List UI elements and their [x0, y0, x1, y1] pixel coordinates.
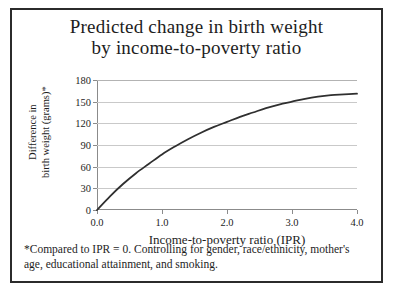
x-tick-label: 2.0	[220, 217, 233, 228]
plot-region: Difference in birth weight (grams)* 0306…	[12, 68, 385, 223]
x-tick-mark	[292, 210, 293, 214]
footnote: *Compared to IPR = 0. Controlling for ge…	[24, 242, 371, 273]
y-axis-title-line-2: birth weight (grams)*	[39, 66, 52, 198]
y-axis-title-line-1: Difference in	[27, 104, 38, 159]
y-tick-label: 120	[75, 118, 91, 129]
y-tick-label: 180	[75, 75, 91, 86]
y-tick-label: 90	[81, 140, 92, 151]
y-tick-label: 60	[81, 161, 92, 172]
prediction-curve	[97, 80, 357, 210]
figure-panel: Predicted change in birth weight by inco…	[10, 8, 383, 283]
y-tick-label: 30	[81, 183, 92, 194]
curve-path	[97, 94, 357, 210]
chart-title: Predicted change in birth weight by inco…	[12, 16, 381, 59]
y-axis-title: Difference in birth weight (grams)*	[26, 66, 52, 198]
x-tick-label: 1.0	[155, 217, 168, 228]
x-tick-label: 0.0	[90, 217, 103, 228]
x-tick-label: 4.0	[350, 217, 363, 228]
x-tick-label: 3.0	[285, 217, 298, 228]
chart-title-line-1: Predicted change in birth weight	[12, 16, 381, 37]
x-tick-mark	[357, 210, 358, 214]
x-tick-mark	[227, 210, 228, 214]
axes: 0306090120150180 0.01.02.03.04.0 Income-…	[97, 80, 357, 210]
y-tick-label: 150	[75, 96, 91, 107]
chart-title-line-2: by income-to-poverty ratio	[12, 37, 381, 58]
y-tick-label: 0	[86, 205, 91, 216]
x-tick-mark	[162, 210, 163, 214]
